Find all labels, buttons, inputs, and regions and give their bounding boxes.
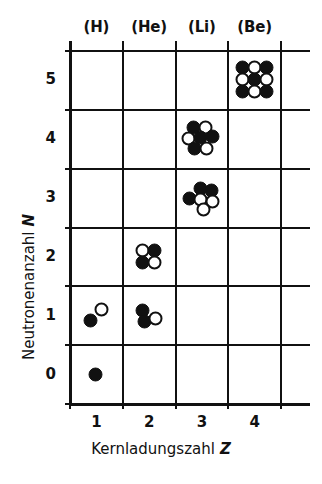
y-axis-title: NeutronenanzahlN [20, 214, 38, 360]
y-axis-title-text: Neutronenanzahl [20, 231, 38, 360]
nucleus-hydrogen-1 [96, 374, 97, 375]
y-axis-tick [65, 50, 74, 52]
gridline-vertical [280, 41, 282, 404]
proton-marker [259, 85, 273, 99]
y-axis-title-symbol: N [20, 214, 38, 232]
neutron-marker [196, 203, 210, 217]
y-axis-tick [65, 227, 74, 229]
x-tick-label-3: 3 [177, 413, 227, 431]
column-label-be: (Be) [215, 18, 295, 36]
x-axis-tick [227, 400, 229, 409]
x-axis-tick [280, 400, 282, 409]
neutron-marker [148, 255, 162, 269]
y-axis-tick [65, 285, 74, 287]
x-tick-label-1: 1 [71, 413, 121, 431]
x-axis-title-text: Kernladungszahl [91, 440, 215, 458]
y-tick-label-4: 4 [22, 129, 56, 147]
x-axis-tick [69, 400, 71, 409]
gridline-vertical [227, 41, 229, 404]
nucleus-lithium-7 [201, 139, 202, 140]
x-axis-title: KernladungszahlZ [0, 440, 322, 458]
gridline-horizontal [70, 285, 310, 287]
proton-marker [84, 313, 98, 327]
y-tick-label-3: 3 [22, 188, 56, 206]
nucleus-hydrogen-2 [96, 315, 97, 316]
gridline-horizontal [70, 344, 310, 346]
nuclide-chart: (H)(He)(Li)(Be) 0123451234 Kernladungsza… [0, 0, 322, 484]
y-tick-label-5: 5 [22, 70, 56, 88]
proton-marker [89, 367, 103, 381]
x-tick-label-2: 2 [124, 413, 174, 431]
x-axis-tick [175, 400, 177, 409]
y-tick-label-0: 0 [22, 365, 56, 383]
gridline-vertical [175, 41, 177, 404]
neutron-marker [199, 142, 213, 156]
neutron-marker [149, 311, 163, 325]
gridline-vertical [122, 41, 124, 404]
neutron-marker [95, 302, 109, 316]
nucleus-helium-3 [149, 315, 150, 316]
nucleus-beryllium-9 [254, 80, 255, 81]
x-tick-label-4: 4 [230, 413, 280, 431]
y-axis-tick [65, 109, 74, 111]
nucleus-helium-4 [149, 256, 150, 257]
nucleus-lithium-6 [201, 198, 202, 199]
gridline-horizontal [70, 50, 310, 52]
y-axis-tick [65, 168, 74, 170]
y-axis-tick [65, 344, 74, 346]
y-axis-spine [69, 41, 72, 406]
x-axis-spine [69, 403, 310, 406]
x-axis-tick [122, 400, 124, 409]
gridline-horizontal [70, 168, 310, 170]
gridline-horizontal [70, 109, 310, 111]
x-axis-title-symbol: Z [215, 440, 231, 458]
gridline-horizontal [70, 227, 310, 229]
